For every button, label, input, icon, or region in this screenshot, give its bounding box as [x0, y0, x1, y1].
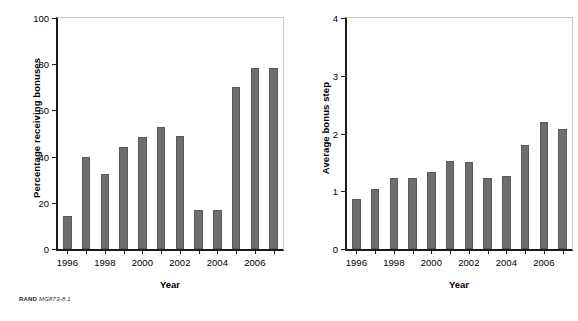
x-axis-tick [544, 249, 545, 254]
bar [157, 127, 166, 249]
bar [483, 178, 492, 249]
y-axis-tick-label: 40 [38, 151, 49, 162]
x-axis-tick [236, 249, 237, 254]
bar [213, 210, 222, 249]
x-axis-tick [469, 249, 470, 254]
x-axis-tick-label: 2006 [533, 257, 554, 268]
y-axis-tick [52, 249, 58, 250]
y-axis-tick-label: 60 [38, 105, 49, 116]
x-axis-title: Year [345, 279, 573, 290]
y-axis-tick [341, 18, 347, 19]
bar [251, 68, 260, 249]
x-axis-tick [525, 249, 526, 254]
y-axis-tick [52, 18, 58, 19]
credit-code: MG873-8.1 [39, 296, 71, 302]
x-axis-tick [394, 249, 395, 254]
x-axis-tick-label: 1998 [94, 257, 115, 268]
x-axis-tick-label: 2004 [207, 257, 228, 268]
x-axis-tick-label: 1996 [346, 257, 367, 268]
x-axis-tick [105, 249, 106, 254]
x-axis-tick [431, 249, 432, 254]
bar [390, 178, 399, 249]
y-axis-tick-label: 20 [38, 197, 49, 208]
y-axis-tick-label: 3 [333, 70, 338, 81]
bar [194, 210, 203, 249]
y-axis-tick [52, 157, 58, 158]
bar [232, 87, 241, 249]
x-axis-tick [180, 249, 181, 254]
x-axis-tick-label: 2006 [244, 257, 265, 268]
bar [269, 68, 278, 249]
bar [558, 129, 567, 249]
x-axis-tick [375, 249, 376, 254]
bar [119, 147, 128, 249]
x-axis-tick-label: 1998 [383, 257, 404, 268]
y-axis-tick [341, 191, 347, 192]
x-axis-tick [274, 249, 275, 254]
credit-publisher: RAND [19, 296, 37, 302]
x-axis-tick [563, 249, 564, 254]
x-axis-tick [488, 249, 489, 254]
bar [63, 216, 72, 249]
bar [446, 161, 455, 249]
y-axis-tick [341, 134, 347, 135]
x-axis-tick-label: 2000 [132, 257, 153, 268]
bar [82, 157, 91, 249]
y-axis-tick [341, 249, 347, 250]
bar [352, 199, 361, 249]
y-axis-tick-label: 2 [333, 128, 338, 139]
figure-bonus-charts: Percentage receiving bonuses 02040608010… [0, 0, 578, 321]
x-axis-tick [124, 249, 125, 254]
bar [540, 122, 549, 249]
plot-area: 020406080100199619982000200220042006 [56, 17, 284, 251]
bar [502, 176, 511, 249]
x-axis-tick [356, 249, 357, 254]
bar-series [347, 18, 572, 249]
y-axis-tick [52, 110, 58, 111]
x-axis-tick [161, 249, 162, 254]
bar-series [58, 18, 283, 249]
y-axis-tick-label: 100 [33, 13, 49, 24]
x-axis-tick-label: 2002 [458, 257, 479, 268]
bar [465, 162, 474, 249]
x-axis-tick [506, 249, 507, 254]
x-axis-tick-label: 1996 [57, 257, 78, 268]
x-axis-tick-label: 2002 [169, 257, 190, 268]
bar [408, 178, 417, 249]
y-axis-tick [341, 76, 347, 77]
plot-area: 01234199619982000200220042006 [345, 17, 573, 251]
y-axis-tick-label: 0 [333, 244, 338, 255]
x-axis-title: Year [56, 279, 284, 290]
x-axis-tick [199, 249, 200, 254]
x-axis-tick [413, 249, 414, 254]
bar [138, 137, 147, 249]
x-axis-tick [86, 249, 87, 254]
y-axis-tick-label: 1 [333, 186, 338, 197]
bar [427, 172, 436, 249]
chart-panel-average-bonus-step: Average bonus step 012341996199820002002… [289, 0, 578, 290]
y-axis-title: Average bonus step [320, 28, 331, 228]
y-axis-tick-label: 0 [44, 244, 49, 255]
rand-credit: RAND MG873-8.1 [19, 296, 71, 302]
y-axis-tick-label: 4 [333, 13, 338, 24]
x-axis-tick-label: 2004 [496, 257, 517, 268]
x-axis-tick-label: 2000 [421, 257, 442, 268]
x-axis-tick [450, 249, 451, 254]
chart-panel-percentage-receiving-bonuses: Percentage receiving bonuses 02040608010… [0, 0, 289, 290]
bar [176, 136, 185, 249]
x-axis-tick [217, 249, 218, 254]
x-axis-tick [255, 249, 256, 254]
y-axis-tick-label: 80 [38, 59, 49, 70]
y-axis-tick [52, 203, 58, 204]
bar [101, 174, 110, 249]
y-axis-tick [52, 64, 58, 65]
bar [371, 189, 380, 249]
x-axis-tick [142, 249, 143, 254]
bar [521, 145, 530, 249]
x-axis-tick [67, 249, 68, 254]
